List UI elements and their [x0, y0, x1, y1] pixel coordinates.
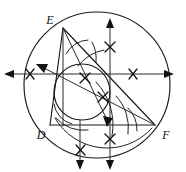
- arrow-left-icon: [4, 70, 14, 78]
- arrow-down-icon: [106, 160, 114, 170]
- arrow-upper-left-icon: [36, 64, 48, 73]
- bisector-ray-from-E: [63, 28, 108, 122]
- incircle: [54, 64, 110, 120]
- arrow-down-secondary-icon: [76, 160, 84, 170]
- vertex-label-F: F: [161, 128, 170, 142]
- vertex-label-E: E: [45, 13, 54, 27]
- construction-arc-F-outer: [116, 96, 128, 134]
- geometry-figure: E D F: [0, 0, 186, 172]
- geometry-canvas: E D F: [0, 0, 186, 172]
- construction-arc-bottom-sweep: [55, 118, 152, 148]
- circumcircle: [24, 12, 170, 158]
- arrow-up-icon: [106, 18, 114, 28]
- vertex-label-D: D: [36, 128, 46, 142]
- bisector-ray-from-F: [40, 66, 155, 125]
